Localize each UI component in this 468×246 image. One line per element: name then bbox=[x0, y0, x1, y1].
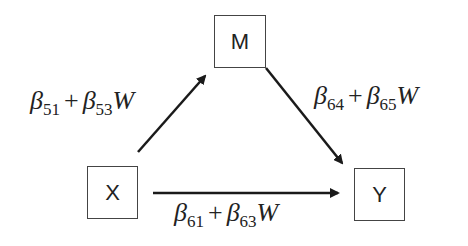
beta-symbol: β bbox=[367, 81, 380, 110]
label-x-to-y: β61+β63W bbox=[174, 198, 278, 232]
beta-symbol: β bbox=[30, 86, 43, 115]
subscript: 53 bbox=[96, 100, 113, 119]
node-m-label: M bbox=[231, 29, 249, 55]
node-y-label: Y bbox=[372, 182, 387, 208]
plus-sign: + bbox=[64, 86, 79, 115]
beta-symbol: β bbox=[83, 86, 96, 115]
beta-symbol: β bbox=[314, 81, 327, 110]
subscript: 64 bbox=[327, 95, 344, 114]
plus-sign: + bbox=[348, 81, 363, 110]
node-y: Y bbox=[354, 168, 405, 221]
label-x-to-m: β51+β53W bbox=[30, 86, 134, 120]
subscript: 51 bbox=[43, 100, 60, 119]
arrow-x-to-m bbox=[138, 76, 205, 152]
node-x: X bbox=[87, 166, 138, 219]
subscript: 65 bbox=[380, 95, 397, 114]
beta-symbol: β bbox=[227, 198, 240, 227]
plus-sign: + bbox=[208, 198, 223, 227]
subscript: 61 bbox=[187, 212, 204, 231]
moderator-w: W bbox=[113, 86, 135, 115]
label-m-to-y: β64+β65W bbox=[314, 81, 418, 115]
node-x-label: X bbox=[105, 180, 120, 206]
moderator-w: W bbox=[397, 81, 419, 110]
beta-symbol: β bbox=[174, 198, 187, 227]
moderator-w: W bbox=[257, 198, 279, 227]
subscript: 63 bbox=[240, 212, 257, 231]
node-m: M bbox=[214, 15, 266, 68]
